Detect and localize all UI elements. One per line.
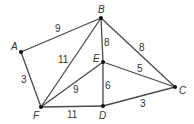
graph-diagram: 9 3 11 8 8 5 9 6 11 3 A B C D E F — [0, 0, 194, 124]
node-label-b: B — [98, 4, 105, 15]
weight-f-b: 11 — [58, 54, 69, 65]
node-d — [101, 104, 105, 108]
weight-b-c: 8 — [139, 42, 145, 53]
node-e — [101, 60, 105, 64]
node-b — [99, 16, 103, 20]
weight-e-d: 6 — [105, 80, 111, 91]
node-label-d: D — [99, 110, 106, 121]
weight-d-c: 3 — [140, 98, 146, 109]
node-c — [173, 85, 177, 89]
node-a — [19, 50, 23, 54]
edge-f-e — [41, 62, 103, 107]
node-label-e: E — [93, 53, 100, 64]
weight-f-d: 11 — [67, 109, 78, 120]
node-label-c: C — [179, 85, 187, 96]
weight-a-f: 3 — [21, 74, 27, 85]
node-f — [39, 105, 43, 109]
edge-b-e — [101, 18, 103, 62]
weight-e-c: 5 — [137, 63, 143, 74]
weight-a-b: 9 — [55, 23, 61, 34]
edge-f-d — [41, 106, 103, 107]
edge-d-c — [103, 87, 175, 106]
weight-b-e: 8 — [104, 37, 110, 48]
node-label-a: A — [10, 41, 18, 52]
weight-f-e: 9 — [73, 84, 79, 95]
node-label-f: F — [33, 110, 40, 121]
edge-b-c — [101, 18, 175, 87]
